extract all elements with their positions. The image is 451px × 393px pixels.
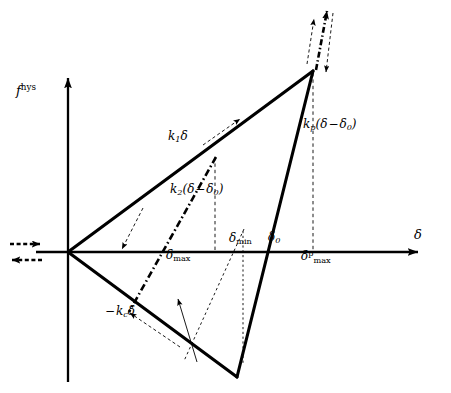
k2-branch-arrow bbox=[122, 208, 143, 249]
y-axis-label: fhys bbox=[16, 83, 36, 97]
axes-group bbox=[36, 78, 418, 382]
droplines-group bbox=[184, 73, 313, 364]
x-axis-label: δ bbox=[414, 228, 422, 241]
delta-max-label: δmax bbox=[166, 249, 190, 262]
k2-unloading-group bbox=[129, 157, 216, 312]
hysteresis-figure: fhys δ k1δ k2(δ−δ0) kp(δ−δ0) −kcδ δmax δ… bbox=[0, 0, 451, 393]
k2-delta-delta0-label: k2(δ−δ0) bbox=[170, 183, 223, 196]
delta-zero-label: δ0 bbox=[268, 231, 280, 244]
k2-unloading-dashdot bbox=[129, 157, 216, 312]
minus-kc-delta-label: −kcδ bbox=[104, 305, 135, 318]
upper-branch-arrow bbox=[203, 119, 240, 145]
apex-arrow-down-right bbox=[326, 13, 333, 72]
delta-p-max-label: δpmax bbox=[301, 249, 331, 264]
apex-arrow-up-left bbox=[307, 19, 314, 64]
apex-arrow-up-dashdot bbox=[316, 11, 327, 70]
hysteresis-loop-group bbox=[68, 71, 313, 377]
k1-delta-label: k1δ bbox=[168, 130, 188, 143]
kp-delta-delta0-label: kp(δ−δ0) bbox=[303, 118, 357, 131]
figure-canvas bbox=[0, 0, 451, 393]
lower-loading-branch-kc bbox=[68, 252, 237, 377]
delta-min-slant-line bbox=[184, 229, 244, 361]
delta-min-label: δmin bbox=[229, 232, 252, 245]
